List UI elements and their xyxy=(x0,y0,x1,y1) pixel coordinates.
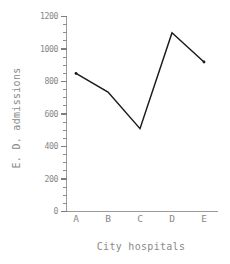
y-tick-label-0: 0 xyxy=(53,206,58,216)
y-tick-label-1000: 1000 xyxy=(40,44,59,54)
chart-canvas: 0 200 400 600 800 1000 1200 A B C D E Ci… xyxy=(0,0,230,264)
x-axis-title: City hospitals xyxy=(97,241,186,252)
y-tick-label-800: 800 xyxy=(44,76,58,86)
y-tick-label-200: 200 xyxy=(44,174,58,184)
x-tick-label-c: C xyxy=(137,213,143,224)
x-tick-label-e: E xyxy=(201,213,207,224)
y-tick-label-400: 400 xyxy=(44,141,58,151)
y-axis-major-ticks xyxy=(61,17,67,212)
x-tick-label-a: A xyxy=(73,213,79,224)
data-point-e xyxy=(203,61,206,64)
x-tick-label-d: D xyxy=(169,213,175,224)
data-series-line xyxy=(76,33,204,129)
data-point-a xyxy=(75,72,78,75)
y-tick-label-600: 600 xyxy=(44,109,58,119)
x-tick-label-b: B xyxy=(105,213,111,224)
line-chart: 0 200 400 600 800 1000 1200 A B C D E Ci… xyxy=(0,0,230,264)
y-tick-label-1200: 1200 xyxy=(40,11,59,21)
y-axis-title: E. D. admissions xyxy=(11,67,22,168)
